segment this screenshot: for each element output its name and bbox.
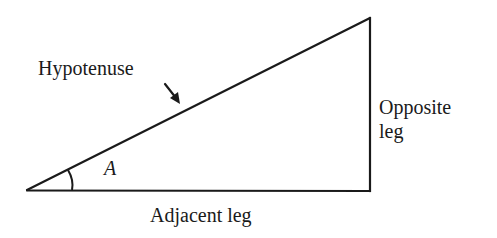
opposite-leg-label: Opposite leg bbox=[379, 95, 451, 143]
opposite-leg-label-line1: Opposite bbox=[379, 95, 451, 119]
adjacent-leg-label: Adjacent leg bbox=[150, 205, 252, 225]
opposite-leg-label-line2: leg bbox=[379, 119, 451, 143]
arrow-icon bbox=[165, 84, 180, 104]
angle-a-arc bbox=[68, 170, 73, 190]
angle-a-label: A bbox=[104, 158, 116, 178]
adjacent-leg-line bbox=[27, 191, 370, 192]
hypotenuse-line bbox=[27, 18, 370, 190]
hypotenuse-label: Hypotenuse bbox=[38, 58, 134, 78]
